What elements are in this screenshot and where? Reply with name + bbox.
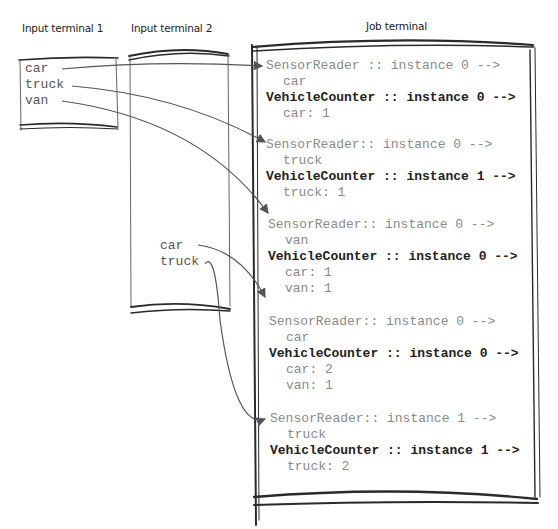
- job-entry-3-counter: VehicleCounter :: instance 0 -->: [269, 346, 519, 362]
- input1-line-car: car: [25, 61, 48, 77]
- job-entry-2-count-0: car: 1: [285, 265, 332, 281]
- job-terminal-title: Job terminal: [366, 20, 427, 32]
- job-entry-2-input: van: [285, 233, 308, 249]
- job-entry-3-reader: SensorReader:: instance 0 -->: [269, 314, 495, 330]
- input-terminal-1-title: Input terminal 1: [22, 22, 103, 34]
- diagram-canvas: Input terminal 1 Input terminal 2 Job te…: [0, 0, 558, 529]
- job-entry-2-count-1: van: 1: [285, 281, 332, 297]
- job-entry-1-reader: SensorReader:: instance 0 -->: [266, 137, 492, 153]
- job-entry-0-count-0: car: 1: [283, 106, 330, 122]
- arrow-car-1: [62, 64, 262, 69]
- input1-line-van: van: [25, 93, 48, 109]
- arrow-truck-2: [205, 262, 265, 420]
- job-entry-3-count-1: van: 1: [286, 378, 333, 394]
- job-entry-4-input: truck: [287, 427, 326, 443]
- job-entry-0-input: car: [283, 74, 306, 90]
- input2-line-car: car: [160, 238, 183, 254]
- input-terminal-2-title: Input terminal 2: [131, 22, 212, 34]
- job-entry-0-reader: SensorReader :: instance 0 -->: [266, 58, 500, 74]
- arrow-truck-1: [72, 86, 265, 142]
- job-entry-4-reader: SensorReader:: instance 1 -->: [270, 411, 496, 427]
- job-entry-4-count-0: truck: 2: [287, 459, 349, 475]
- job-entry-3-input: car: [286, 330, 309, 346]
- input2-line-truck: truck: [160, 254, 199, 270]
- arrow-van-1: [62, 101, 268, 213]
- job-entry-2-counter: VehicleCounter :: instance 0 -->: [268, 249, 518, 265]
- job-entry-4-counter: VehicleCounter :: instance 1 -->: [270, 443, 520, 459]
- job-entry-2-reader: SensorReader:: instance 0 -->: [268, 217, 494, 233]
- job-entry-0-counter: VehicleCounter :: instance 0 -->: [266, 90, 516, 106]
- input1-line-truck: truck: [25, 77, 64, 93]
- job-entry-1-input: truck: [283, 153, 322, 169]
- job-entry-1-counter: VehicleCounter :: instance 1 -->: [266, 169, 516, 185]
- job-entry-1-count-0: truck: 1: [283, 185, 345, 201]
- job-entry-3-count-0: car: 2: [286, 362, 333, 378]
